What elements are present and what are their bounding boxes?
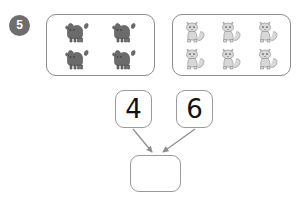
cat-icon xyxy=(182,47,208,71)
worksheet-page: 5 xyxy=(0,0,300,207)
cat-icon xyxy=(182,20,208,44)
dog-grid xyxy=(47,15,154,75)
dog-icon xyxy=(64,47,90,71)
arrow-right-to-answer xyxy=(163,129,195,152)
question-number-badge: 5 xyxy=(9,15,30,36)
dog-icon xyxy=(111,47,137,71)
cat-icon xyxy=(218,20,244,44)
answer-box[interactable] xyxy=(130,155,181,192)
group-box-cats xyxy=(172,14,291,76)
dog-icon xyxy=(64,20,90,44)
cat-icon xyxy=(255,47,281,71)
group-box-dogs xyxy=(46,14,155,76)
cat-grid xyxy=(173,15,290,75)
dog-icon xyxy=(111,20,137,44)
cat-icon xyxy=(255,20,281,44)
cat-icon xyxy=(218,47,244,71)
number-card-right[interactable]: 6 xyxy=(176,90,213,128)
arrow-left-to-answer xyxy=(133,129,152,152)
number-card-left[interactable]: 4 xyxy=(115,90,152,128)
